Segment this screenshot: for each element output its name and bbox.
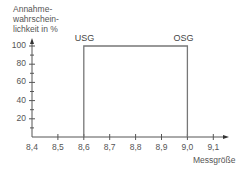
y-axis-arrow-icon (30, 38, 34, 44)
x-tick-label: 8,9 (152, 142, 172, 152)
x-tick-label: 8,8 (126, 142, 146, 152)
y-tick-label: 40 (4, 95, 26, 105)
usg-label: USG (75, 33, 95, 43)
x-tick-label: 9,1 (203, 142, 223, 152)
y-tick-label: 80 (4, 58, 26, 68)
y-tick-label: 20 (4, 113, 26, 123)
y-label-line: Annahme- (13, 4, 59, 14)
x-tick-label: 8,5 (48, 142, 68, 152)
x-tick-label: 8,6 (74, 142, 94, 152)
x-tick-label: 8,4 (22, 142, 42, 152)
y-tick-label: 100 (4, 40, 26, 50)
y-axis-label: Annahme- wahrschein- lichkeit in % (13, 4, 59, 34)
y-label-line: lichkeit in % (13, 24, 59, 34)
x-axis-label: Messgröße (193, 155, 236, 165)
y-tick-label: 60 (4, 76, 26, 86)
x-tick-label: 8,7 (100, 142, 120, 152)
osg-label: OSG (173, 33, 193, 43)
x-axis-arrow-icon (223, 135, 229, 139)
x-tick-label: 9,0 (177, 142, 197, 152)
y-label-line: wahrschein- (13, 14, 59, 24)
acceptance-curve (84, 46, 188, 137)
